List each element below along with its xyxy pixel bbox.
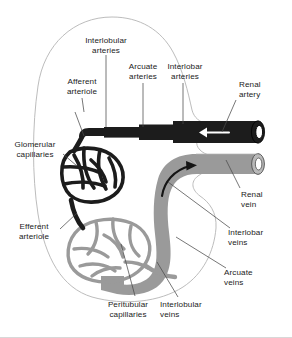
label-interlobular-arteries: Interlobular arteries xyxy=(74,36,138,55)
label-glomerular-capillaries: Glomerular capillaries xyxy=(2,140,68,159)
label-interlobar-veins: Interlobar veins xyxy=(228,228,288,247)
glomerular-capillary-tuft xyxy=(62,148,123,202)
interlobar-artery-segment xyxy=(139,125,175,141)
leader-afferent-arteriole-2 xyxy=(75,112,84,136)
renal-circulation-diagram xyxy=(0,0,292,338)
label-afferent-arteriole: Afferent arteriole xyxy=(51,77,113,96)
renal-vein-lumen xyxy=(255,158,262,170)
renal-artery-lumen xyxy=(256,125,263,138)
label-renal-artery: Renal artery xyxy=(239,80,289,99)
label-interlobar-arteries: Interlobar arteries xyxy=(155,62,215,81)
efferent-arteriole-vessel xyxy=(71,200,83,228)
peritubular-capillary-network xyxy=(68,219,150,282)
leader-interlobar-veins xyxy=(168,182,230,228)
label-interlobular-veins: Interlobular veins xyxy=(160,300,222,319)
label-arcuate-veins: Arcuate veins xyxy=(224,268,284,287)
label-renal-vein: Renal vein xyxy=(241,190,289,209)
label-efferent-arteriole: Efferent arteriole xyxy=(3,222,65,241)
label-peritubular-capillaries: Peritubular capillaries xyxy=(95,300,161,319)
renal-circulation-figure: Interlobular arteries Arcuate arteries I… xyxy=(0,0,292,338)
leader-arcuate-veins xyxy=(176,237,226,268)
arcuate-artery-segment xyxy=(104,127,141,138)
leader-afferent-arteriole xyxy=(82,98,84,112)
